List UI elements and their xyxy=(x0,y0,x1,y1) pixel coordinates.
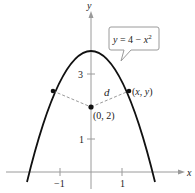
x-axis: x −1 1 xyxy=(6,167,192,189)
x-axis-label: x xyxy=(186,167,192,178)
y-axis: y 3 1 xyxy=(78,0,95,189)
x-axis-arrow-icon xyxy=(178,170,185,175)
right-point-label: (x, y) xyxy=(132,86,153,98)
x-tick-label-neg1: −1 xyxy=(54,178,65,189)
y-tick-label-3: 3 xyxy=(78,69,83,80)
center-point-label: (0, 2) xyxy=(93,110,115,122)
equation-callout: y = 4 − x2 xyxy=(109,27,159,61)
center-point xyxy=(88,104,93,109)
y-axis-label: y xyxy=(86,0,92,11)
y-axis-arrow-icon xyxy=(89,11,94,18)
right-point xyxy=(127,89,132,94)
equation-label: y = 4 − x2 xyxy=(112,33,152,45)
x-tick-label-1: 1 xyxy=(120,178,125,189)
parabola-diagram: x −1 1 y 3 1 d (x, y) (0, 2) y = 4 − x2 xyxy=(0,0,195,193)
left-point xyxy=(51,89,56,94)
y-tick-label-1: 1 xyxy=(79,134,84,145)
distance-label: d xyxy=(104,86,110,98)
